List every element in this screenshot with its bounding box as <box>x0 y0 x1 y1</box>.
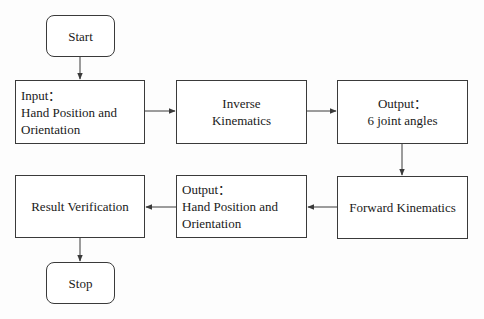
output-hand-line-3: Orientation <box>182 215 241 232</box>
flowchart-canvas: Start Input： Hand Position and Orientati… <box>0 0 484 319</box>
input-heading: Input： <box>21 87 61 104</box>
input-hand-position-node: Input： Hand Position and Orientation <box>15 80 145 144</box>
forward-kinematics-node: Forward Kinematics <box>337 176 468 239</box>
inverse-kinematics-line-2: Kinematics <box>212 112 271 129</box>
start-node: Start <box>46 15 115 57</box>
input-line-2: Hand Position and <box>21 104 117 121</box>
start-label: Start <box>68 28 93 45</box>
result-verification-label: Result Verification <box>31 198 129 215</box>
result-verification-node: Result Verification <box>15 175 145 238</box>
inverse-kinematics-node: Inverse Kinematics <box>176 80 307 144</box>
joint-angles-heading: Output： <box>378 95 427 112</box>
output-joint-angles-node: Output： 6 joint angles <box>337 80 468 144</box>
stop-node: Stop <box>46 262 115 304</box>
stop-label: Stop <box>69 275 93 292</box>
forward-kinematics-label: Forward Kinematics <box>349 199 456 216</box>
output-hand-position-node: Output： Hand Position and Orientation <box>176 175 307 238</box>
output-hand-heading: Output： <box>182 181 231 198</box>
joint-angles-line-2: 6 joint angles <box>367 112 437 129</box>
output-hand-line-2: Hand Position and <box>182 198 278 215</box>
input-line-3: Orientation <box>21 121 80 138</box>
inverse-kinematics-line-1: Inverse <box>222 95 260 112</box>
